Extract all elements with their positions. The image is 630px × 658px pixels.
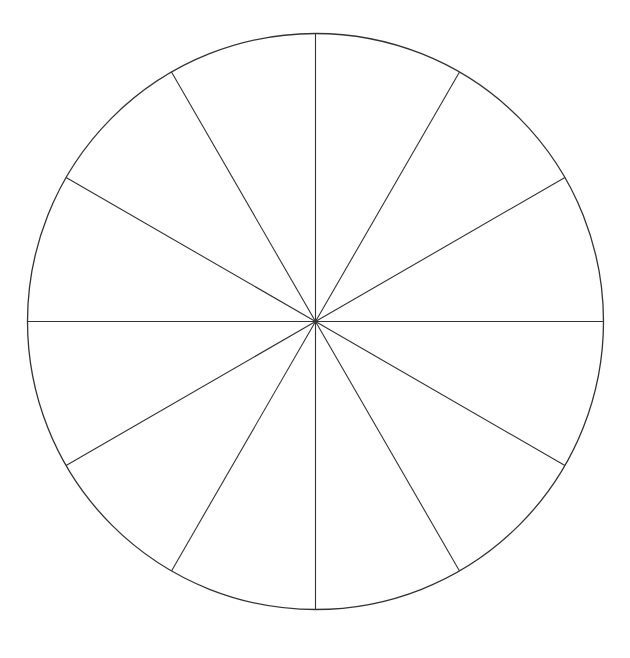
sector-divider-line xyxy=(172,322,316,571)
sector-divider-line xyxy=(316,72,460,321)
sector-divider-line xyxy=(316,322,460,571)
sector-divider-line xyxy=(66,322,315,466)
sector-divider-line xyxy=(172,72,316,321)
segmented-circle-diagram xyxy=(0,0,630,658)
sector-divider-line xyxy=(66,178,315,322)
sector-divider-line xyxy=(316,178,565,322)
sector-divider-line xyxy=(316,322,565,466)
sector-dividers xyxy=(28,34,604,610)
